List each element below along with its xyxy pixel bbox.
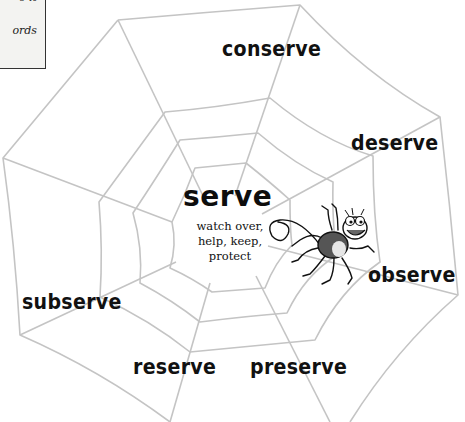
cartoon-spider-icon	[0, 0, 465, 422]
word-web-diagram: e it ords conserve deserve observe prese…	[0, 0, 465, 422]
silk-lasso	[270, 220, 320, 245]
